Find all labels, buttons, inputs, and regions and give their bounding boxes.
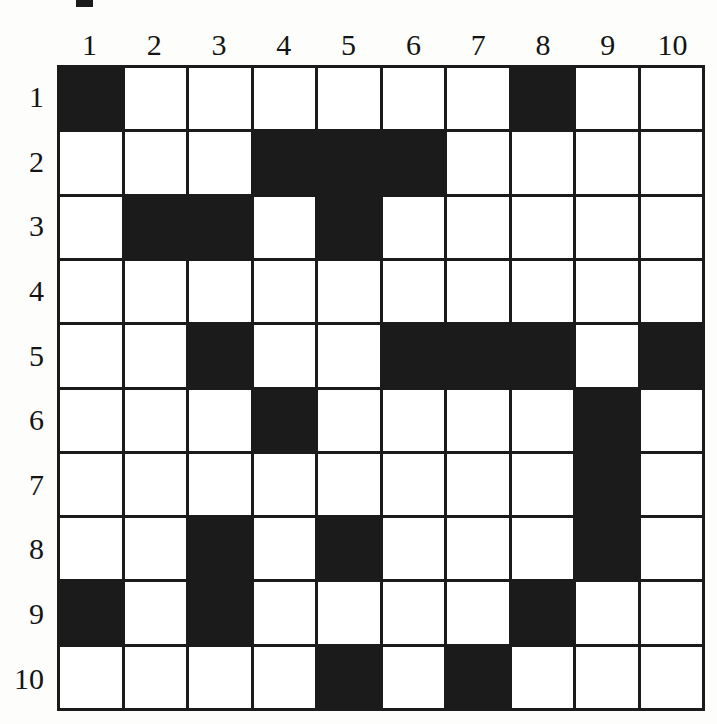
grid-cell-r5-c6[interactable] bbox=[383, 325, 448, 389]
grid-cell-r3-c7[interactable] bbox=[447, 197, 512, 261]
grid-cell-r9-c7[interactable] bbox=[447, 582, 512, 646]
grid-cell-r7-c8[interactable] bbox=[512, 454, 577, 518]
grid-cell-r5-c4[interactable] bbox=[254, 325, 319, 389]
grid-cell-r10-c4[interactable] bbox=[254, 647, 319, 711]
grid-cell-r2-c6[interactable] bbox=[383, 132, 448, 196]
grid-cell-r1-c8[interactable] bbox=[512, 68, 577, 132]
grid-cell-r7-c3[interactable] bbox=[189, 454, 254, 518]
grid-cell-r8-c1[interactable] bbox=[60, 518, 125, 582]
grid-cell-r6-c9[interactable] bbox=[576, 390, 641, 454]
grid-cell-r5-c1[interactable] bbox=[60, 325, 125, 389]
grid-cell-r3-c8[interactable] bbox=[512, 197, 577, 261]
grid-cell-r1-c10[interactable] bbox=[641, 68, 706, 132]
grid-cell-r10-c8[interactable] bbox=[512, 647, 577, 711]
grid-cell-r7-c9[interactable] bbox=[576, 454, 641, 518]
grid-cell-r1-c5[interactable] bbox=[318, 68, 383, 132]
grid-cell-r10-c6[interactable] bbox=[383, 647, 448, 711]
grid-cell-r8-c8[interactable] bbox=[512, 518, 577, 582]
grid-cell-r3-c6[interactable] bbox=[383, 197, 448, 261]
grid-cell-r6-c10[interactable] bbox=[641, 390, 706, 454]
grid-cell-r4-c1[interactable] bbox=[60, 261, 125, 325]
grid-cell-r7-c4[interactable] bbox=[254, 454, 319, 518]
grid-cell-r5-c8[interactable] bbox=[512, 325, 577, 389]
grid-cell-r1-c3[interactable] bbox=[189, 68, 254, 132]
grid-cell-r9-c6[interactable] bbox=[383, 582, 448, 646]
grid-cell-r10-c2[interactable] bbox=[125, 647, 190, 711]
grid-cell-r6-c6[interactable] bbox=[383, 390, 448, 454]
grid-cell-r10-c9[interactable] bbox=[576, 647, 641, 711]
grid-cell-r3-c4[interactable] bbox=[254, 197, 319, 261]
grid-cell-r2-c1[interactable] bbox=[60, 132, 125, 196]
grid-cell-r9-c9[interactable] bbox=[576, 582, 641, 646]
grid-cell-r8-c2[interactable] bbox=[125, 518, 190, 582]
grid-cell-r10-c10[interactable] bbox=[641, 647, 706, 711]
grid-cell-r2-c4[interactable] bbox=[254, 132, 319, 196]
grid-cell-r6-c5[interactable] bbox=[318, 390, 383, 454]
grid-cell-r3-c10[interactable] bbox=[641, 197, 706, 261]
grid-cell-r6-c2[interactable] bbox=[125, 390, 190, 454]
grid-cell-r7-c6[interactable] bbox=[383, 454, 448, 518]
grid-cell-r6-c8[interactable] bbox=[512, 390, 577, 454]
grid-cell-r2-c10[interactable] bbox=[641, 132, 706, 196]
grid-cell-r8-c6[interactable] bbox=[383, 518, 448, 582]
grid-cell-r4-c7[interactable] bbox=[447, 261, 512, 325]
grid-cell-r8-c9[interactable] bbox=[576, 518, 641, 582]
grid-cell-r2-c2[interactable] bbox=[125, 132, 190, 196]
grid-cell-r5-c3[interactable] bbox=[189, 325, 254, 389]
grid-cell-r7-c2[interactable] bbox=[125, 454, 190, 518]
grid-cell-r4-c8[interactable] bbox=[512, 261, 577, 325]
grid-cell-r2-c9[interactable] bbox=[576, 132, 641, 196]
grid-cell-r9-c2[interactable] bbox=[125, 582, 190, 646]
grid-cell-r5-c2[interactable] bbox=[125, 325, 190, 389]
grid-cell-r2-c7[interactable] bbox=[447, 132, 512, 196]
grid-cell-r8-c10[interactable] bbox=[641, 518, 706, 582]
grid-cell-r7-c1[interactable] bbox=[60, 454, 125, 518]
grid-cell-r4-c5[interactable] bbox=[318, 261, 383, 325]
grid-cell-r4-c10[interactable] bbox=[641, 261, 706, 325]
puzzle-grid[interactable] bbox=[57, 65, 705, 711]
grid-cell-r4-c3[interactable] bbox=[189, 261, 254, 325]
grid-cell-r6-c3[interactable] bbox=[189, 390, 254, 454]
grid-cell-r4-c9[interactable] bbox=[576, 261, 641, 325]
grid-cell-r8-c7[interactable] bbox=[447, 518, 512, 582]
grid-cell-r7-c5[interactable] bbox=[318, 454, 383, 518]
grid-cell-r1-c6[interactable] bbox=[383, 68, 448, 132]
grid-cell-r6-c4[interactable] bbox=[254, 390, 319, 454]
grid-cell-r1-c4[interactable] bbox=[254, 68, 319, 132]
grid-cell-r1-c1[interactable] bbox=[60, 68, 125, 132]
grid-cell-r1-c2[interactable] bbox=[125, 68, 190, 132]
grid-cell-r6-c1[interactable] bbox=[60, 390, 125, 454]
grid-cell-r9-c10[interactable] bbox=[641, 582, 706, 646]
grid-cell-r9-c5[interactable] bbox=[318, 582, 383, 646]
grid-cell-r3-c2[interactable] bbox=[125, 197, 190, 261]
grid-cell-r1-c7[interactable] bbox=[447, 68, 512, 132]
grid-cell-r2-c8[interactable] bbox=[512, 132, 577, 196]
grid-cell-r5-c7[interactable] bbox=[447, 325, 512, 389]
grid-cell-r8-c3[interactable] bbox=[189, 518, 254, 582]
grid-cell-r3-c1[interactable] bbox=[60, 197, 125, 261]
grid-cell-r3-c9[interactable] bbox=[576, 197, 641, 261]
grid-cell-r7-c10[interactable] bbox=[641, 454, 706, 518]
grid-cell-r10-c5[interactable] bbox=[318, 647, 383, 711]
grid-cell-r3-c3[interactable] bbox=[189, 197, 254, 261]
grid-cell-r8-c5[interactable] bbox=[318, 518, 383, 582]
grid-cell-r1-c9[interactable] bbox=[576, 68, 641, 132]
grid-cell-r5-c9[interactable] bbox=[576, 325, 641, 389]
grid-cell-r10-c3[interactable] bbox=[189, 647, 254, 711]
grid-cell-r9-c3[interactable] bbox=[189, 582, 254, 646]
grid-cell-r9-c4[interactable] bbox=[254, 582, 319, 646]
grid-cell-r8-c4[interactable] bbox=[254, 518, 319, 582]
grid-cell-r9-c8[interactable] bbox=[512, 582, 577, 646]
grid-cell-r4-c2[interactable] bbox=[125, 261, 190, 325]
grid-cell-r4-c4[interactable] bbox=[254, 261, 319, 325]
grid-cell-r10-c1[interactable] bbox=[60, 647, 125, 711]
grid-cell-r6-c7[interactable] bbox=[447, 390, 512, 454]
grid-cell-r3-c5[interactable] bbox=[318, 197, 383, 261]
grid-cell-r10-c7[interactable] bbox=[447, 647, 512, 711]
grid-cell-r5-c5[interactable] bbox=[318, 325, 383, 389]
grid-cell-r5-c10[interactable] bbox=[641, 325, 706, 389]
grid-cell-r2-c3[interactable] bbox=[189, 132, 254, 196]
grid-cell-r2-c5[interactable] bbox=[318, 132, 383, 196]
grid-cell-r4-c6[interactable] bbox=[383, 261, 448, 325]
grid-cell-r7-c7[interactable] bbox=[447, 454, 512, 518]
